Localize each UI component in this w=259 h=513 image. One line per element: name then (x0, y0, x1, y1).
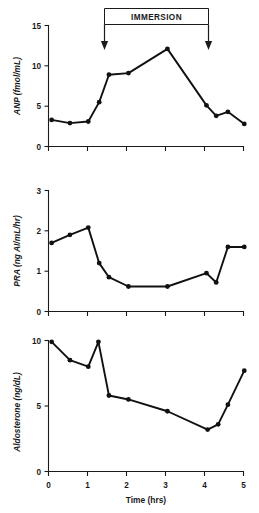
xtick-label-3: 3 (163, 481, 168, 490)
aldosterone-ytick-0: 0 (36, 468, 41, 477)
aldosterone-y-ticks (45, 341, 49, 472)
pra-x-ticks (49, 312, 244, 317)
aldosterone-y-axis-title: Aldosterone (ng/dL) (12, 372, 22, 453)
aldosterone-data-point (126, 397, 131, 402)
aldosterone-data-point (242, 368, 247, 373)
xtick-label-0: 0 (46, 481, 51, 490)
pra-data-point (226, 245, 231, 250)
pra-data-point (97, 261, 102, 266)
x-axis-title: Time (hrs) (126, 495, 167, 505)
anp-ytick-15: 15 (32, 22, 42, 31)
xtick-label-2: 2 (124, 481, 129, 490)
anp-data-point (49, 117, 54, 122)
anp-ytick-10: 10 (32, 62, 42, 71)
anp-x-ticks (49, 147, 244, 152)
aldosterone-markers (49, 339, 246, 432)
figure-canvas: IMMERSION 0 (0, 0, 259, 513)
anp-data-point (68, 121, 73, 126)
aldosterone-ytick-10: 10 (32, 337, 42, 346)
pra-ytick-3: 3 (36, 187, 41, 196)
xtick-label-4: 4 (202, 481, 207, 490)
pra-ytick-1: 1 (36, 267, 41, 276)
anp-y-axis-title: ANP (fmol/mL) (12, 57, 22, 116)
three-panel-time-series-figure: IMMERSION 0 (0, 0, 259, 513)
anp-ytick-5: 5 (36, 102, 41, 111)
pra-data-point (107, 275, 112, 280)
aldosterone-data-point (49, 339, 54, 344)
aldosterone-data-point (165, 409, 170, 414)
pra-series-line (52, 228, 245, 287)
aldosterone-x-ticks (49, 472, 244, 477)
pra-data-point (68, 232, 73, 237)
panel-aldosterone: 0 5 10 0 1 2 3 4 5 Aldosterone (ng/dL) T… (12, 337, 247, 506)
anp-data-point (204, 103, 209, 108)
anp-data-point (97, 100, 102, 105)
pra-data-point (204, 271, 209, 276)
aldosterone-data-point (226, 402, 231, 407)
aldosterone-data-point (107, 393, 112, 398)
anp-data-point (242, 122, 247, 127)
anp-data-point (214, 113, 219, 118)
immersion-end-arrow-icon (205, 25, 212, 51)
xtick-label-1: 1 (85, 481, 90, 490)
aldosterone-data-point (96, 339, 101, 344)
pra-data-point (49, 241, 54, 246)
anp-data-point (126, 71, 131, 76)
aldosterone-data-point (216, 422, 221, 427)
anp-ytick-0: 0 (36, 143, 41, 152)
pra-y-ticks (45, 191, 49, 312)
pra-data-point (165, 284, 170, 289)
aldosterone-series-line (52, 342, 245, 430)
pra-data-point (86, 225, 91, 230)
immersion-annotation: IMMERSION (101, 9, 212, 51)
pra-data-point (126, 284, 131, 289)
immersion-start-arrow-icon (101, 25, 108, 51)
aldosterone-ytick-5: 5 (36, 402, 41, 411)
pra-ytick-2: 2 (36, 227, 41, 236)
immersion-label: IMMERSION (131, 13, 182, 22)
pra-data-point (242, 245, 247, 250)
aldosterone-data-point (86, 364, 91, 369)
anp-y-ticks (45, 26, 49, 147)
panel-pra: 0 1 2 3 PRA (ng AI/mL/hr) (12, 187, 247, 317)
xtick-label-5: 5 (241, 481, 246, 490)
anp-markers (49, 46, 246, 126)
pra-data-point (214, 280, 219, 285)
anp-data-point (165, 46, 170, 51)
aldosterone-data-point (205, 427, 210, 432)
anp-data-point (107, 72, 112, 77)
pra-y-axis-title: PRA (ng AI/mL/hr) (12, 215, 22, 287)
aldosterone-data-point (68, 358, 73, 363)
anp-series-line (52, 49, 245, 124)
pra-ytick-0: 0 (36, 308, 41, 317)
anp-data-point (86, 119, 91, 124)
anp-data-point (226, 109, 231, 114)
